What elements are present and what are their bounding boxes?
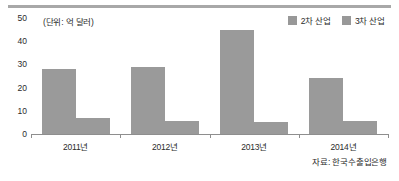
x-axis: 2011년2012년2013년2014년 [31,140,388,154]
y-tick-label: 30 [0,59,27,69]
x-tick-label: 2012년 [152,140,178,152]
bars-layer [31,18,388,134]
x-tick-label: 2013년 [241,140,267,152]
bar [254,122,288,134]
x-tick-label: 2014년 [330,140,356,152]
bar [131,67,165,134]
y-tick-label: 50 [0,13,27,23]
y-axis: 01020304050 [0,18,27,135]
bar [165,121,199,134]
bar [343,121,377,134]
bar [309,78,343,134]
x-axis-tick [388,134,389,138]
x-axis-tick [210,134,211,138]
top-divider-rule [8,5,391,8]
bar [76,118,110,134]
x-tick-label: 2011년 [63,140,88,152]
bar [42,69,76,134]
source-note: 자료: 한국수출입은행 [312,155,387,167]
bar-chart-figure: (단위: 억 달러) 2차 산업 3차 산업 01020304050 2011년… [0,0,399,181]
y-tick-label: 0 [0,129,27,139]
x-axis-tick [299,134,300,138]
x-axis-tick [120,134,121,138]
bar [220,30,254,134]
y-tick-label: 10 [0,106,27,116]
y-tick-label: 40 [0,36,27,46]
x-axis-tick [31,134,32,138]
y-tick-label: 20 [0,83,27,93]
